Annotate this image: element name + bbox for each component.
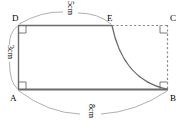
- right-angle-mark-C: [160, 26, 168, 34]
- right-angle-mark-D: [18, 26, 26, 34]
- dashed-edges: [112, 25, 168, 90]
- dimension-label-bottom: 8cm: [87, 101, 95, 121]
- vertex-label-e: E: [107, 14, 113, 23]
- vertex-label-a: A: [10, 94, 17, 103]
- dimension-label-left: 3cm: [6, 42, 14, 62]
- leader-arc-left-lower: [10, 62, 18, 89]
- leader-arc-bottom-right: [101, 91, 167, 114]
- vertex-label-b: B: [170, 94, 176, 103]
- dimension-leader-top: [19, 12, 111, 24]
- vertex-label-c: C: [170, 14, 176, 23]
- geometry-figure: D E C A B 5cm 3cm 8cm: [0, 0, 187, 135]
- curve-E-to-B: [112, 26, 168, 90]
- leader-arc-top-left: [19, 12, 63, 24]
- right-angle-mark-A: [18, 82, 26, 90]
- leader-arc-bottom-left: [19, 91, 80, 114]
- dimension-label-top: 5cm: [66, 0, 74, 18]
- vertex-label-d: D: [12, 14, 19, 23]
